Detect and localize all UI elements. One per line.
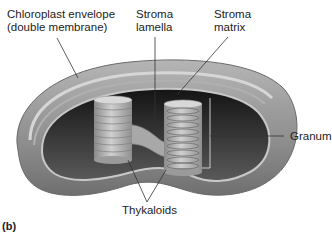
label-envelope-line1: Chloroplast envelope	[7, 8, 115, 21]
label-thylakoids: Thykaloids	[122, 204, 177, 217]
label-stroma-lamella: Stroma lamella	[136, 8, 173, 34]
label-granum: Granum	[290, 130, 332, 143]
label-matrix-line2: matrix	[214, 21, 251, 34]
label-envelope-line2: (double membrane)	[7, 21, 115, 34]
label-lamella-line1: Stroma	[136, 8, 173, 21]
label-matrix-line1: Stroma	[214, 8, 251, 21]
label-chloroplast-envelope: Chloroplast envelope (double membrane)	[7, 8, 115, 34]
granum-right	[164, 100, 202, 176]
granum-left	[94, 96, 132, 164]
label-stroma-matrix: Stroma matrix	[214, 8, 251, 34]
label-lamella-line2: lamella	[136, 21, 173, 34]
panel-label: (b)	[2, 220, 16, 232]
